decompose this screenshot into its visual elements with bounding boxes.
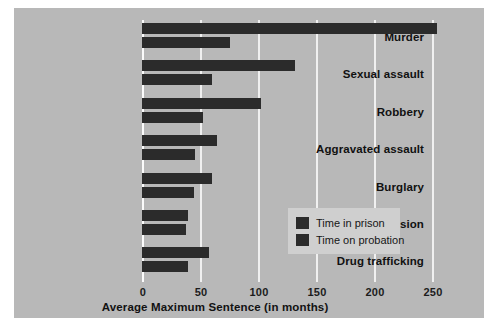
x-tick-label: 200	[366, 286, 385, 298]
chart-legend: Time in prison Time on probation	[288, 208, 400, 254]
x-tick-label: 250	[424, 286, 443, 298]
bar-row: Burglary	[142, 170, 432, 207]
chart-panel: 050100150200250 MurderSexual assaultRobb…	[14, 8, 484, 318]
category-label: Drug trafficking	[337, 255, 424, 267]
x-tick-label: 0	[140, 286, 146, 298]
legend-label-probation: Time on probation	[316, 234, 404, 246]
bar-prison	[142, 60, 295, 71]
bar-prison	[142, 247, 209, 258]
category-label: Burglary	[376, 181, 424, 193]
bar-probation	[142, 224, 186, 235]
bar-probation	[142, 261, 188, 272]
legend-item: Time on probation	[296, 231, 390, 248]
bar-prison	[142, 173, 212, 184]
bar-probation	[142, 187, 194, 198]
gridline-250	[432, 20, 434, 282]
bar-prison	[142, 23, 437, 34]
bar-row: Robbery	[142, 95, 432, 132]
bar-prison	[142, 98, 261, 109]
category-label: Sexual assault	[343, 68, 424, 80]
bar-probation	[142, 37, 230, 48]
x-tick-label: 100	[250, 286, 269, 298]
bar-row: Aggravated assault	[142, 132, 432, 169]
legend-label-prison: Time in prison	[316, 217, 385, 229]
category-label: Robbery	[377, 106, 424, 118]
bar-row: Sexual assault	[142, 57, 432, 94]
category-label: Aggravated assault	[316, 143, 424, 155]
bar-prison	[142, 135, 217, 146]
legend-swatch-prison	[296, 217, 309, 229]
x-tick-label: 150	[308, 286, 327, 298]
chart-figure: 050100150200250 MurderSexual assaultRobb…	[0, 0, 496, 329]
legend-swatch-probation	[296, 234, 309, 246]
x-axis-title: Average Maximum Sentence (in months)	[102, 301, 329, 313]
bar-probation	[142, 112, 203, 123]
bar-row: Murder	[142, 20, 432, 57]
bar-probation	[142, 74, 212, 85]
bar-prison	[142, 210, 188, 221]
legend-item: Time in prison	[296, 214, 390, 231]
x-tick-label: 50	[195, 286, 208, 298]
bar-probation	[142, 149, 195, 160]
